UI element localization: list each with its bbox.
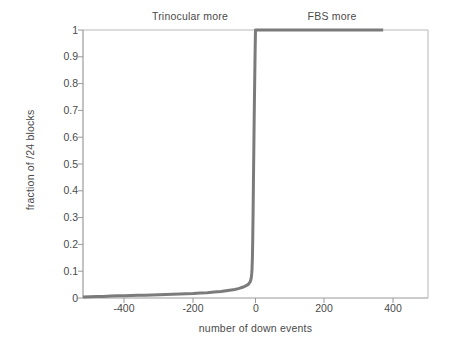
x-tick-200: 200 [294,302,354,314]
x-axis-title: number of down events [83,322,428,334]
chart-figure: Trinocular more FBS more [0,0,451,351]
x-tick-400: 400 [363,302,423,314]
y-axis-title: fraction of /24 blocks [24,85,36,235]
x-axis-tick-labels: -400 -200 0 200 400 [0,0,451,351]
x-tick-0: 0 [226,302,286,314]
x-tick--200: -200 [163,302,223,314]
x-tick--400: -400 [94,302,154,314]
